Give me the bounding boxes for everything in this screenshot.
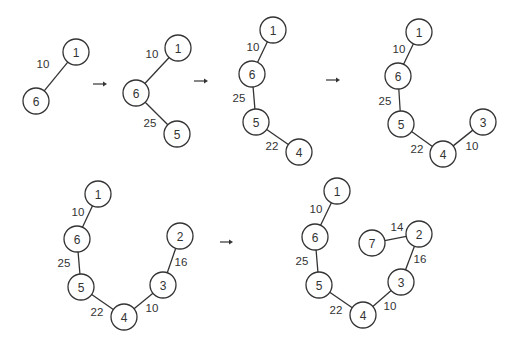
- graph-step-2: 1025165: [123, 35, 191, 147]
- node-label: 5: [398, 118, 405, 132]
- mst-steps-diagram: 1016102516510252216541025221016543102522…: [0, 0, 518, 346]
- graph-steps: 1016102516510252216541025221016543102522…: [23, 17, 496, 330]
- edge-1-6: 10: [247, 41, 268, 62]
- edge-6-5: 25: [233, 87, 255, 109]
- node-1: 1: [63, 39, 89, 65]
- node-4: 4: [350, 302, 376, 328]
- arrow-5-6-icon: [220, 240, 233, 245]
- edge-1-6: 10: [72, 206, 93, 227]
- node-5: 5: [164, 121, 190, 147]
- edge-5-4: 22: [330, 292, 353, 316]
- node-label: 6: [249, 68, 256, 82]
- edge-weight-label: 10: [146, 48, 159, 60]
- node-label: 4: [296, 146, 303, 160]
- graph-step-4: 1025221016543: [379, 19, 496, 167]
- edge-6-5: 25: [144, 102, 168, 129]
- node-label: 4: [121, 311, 128, 325]
- node-6: 6: [64, 226, 90, 252]
- edge-weight-label: 25: [144, 117, 157, 129]
- edge-7-2: 14: [385, 221, 406, 241]
- edge-weight-label: 25: [58, 257, 71, 269]
- node-label: 1: [175, 42, 182, 56]
- edge-weight-label: 22: [411, 143, 424, 155]
- edge-weight-label: 10: [247, 41, 260, 53]
- node-5: 5: [68, 274, 94, 300]
- node-6: 6: [23, 88, 49, 114]
- edge-weight-label: 10: [466, 140, 479, 152]
- edge-weight-label: 25: [296, 255, 309, 267]
- arrow-2-3-icon: [194, 79, 208, 84]
- edge-1-6: 10: [310, 203, 332, 226]
- node-7: 7: [359, 230, 385, 256]
- node-1: 1: [85, 181, 111, 207]
- edge-weight-label: 25: [379, 95, 392, 107]
- node-4: 4: [286, 139, 312, 165]
- edge-weight-label: 10: [384, 300, 397, 312]
- edge-weight-label: 16: [175, 256, 188, 268]
- graph-step-5: 1025221016165432: [58, 181, 193, 330]
- node-label: 6: [395, 70, 402, 84]
- node-3: 3: [150, 272, 176, 298]
- node-label: 3: [480, 116, 487, 130]
- node-4: 4: [430, 141, 456, 167]
- edge-weight-label: 10: [310, 203, 323, 215]
- edge-weight-label: 14: [391, 221, 404, 233]
- node-label: 2: [177, 230, 184, 244]
- node-2: 2: [406, 221, 432, 247]
- node-label: 2: [416, 228, 423, 242]
- node-label: 1: [416, 26, 423, 40]
- node-label: 6: [74, 233, 81, 247]
- graph-step-6: 1025221016141654327: [296, 178, 432, 328]
- edge-weight-label: 22: [91, 306, 104, 318]
- node-1: 1: [324, 178, 350, 204]
- node-1: 1: [260, 17, 286, 43]
- edge-weight-label: 10: [393, 43, 406, 55]
- edge-4-3: 10: [134, 293, 158, 314]
- node-label: 3: [398, 276, 405, 290]
- node-label: 1: [270, 24, 277, 38]
- edge-3-2: 16: [406, 246, 427, 270]
- edge-6-5: 25: [58, 252, 80, 274]
- edge-5-4: 22: [91, 294, 114, 318]
- edge-6-5: 25: [379, 89, 401, 111]
- node-label: 4: [440, 148, 447, 162]
- edge-1-6: 10: [37, 58, 68, 91]
- node-label: 1: [73, 46, 80, 60]
- node-label: 5: [78, 281, 85, 295]
- node-5: 5: [243, 109, 269, 135]
- node-3: 3: [388, 269, 414, 295]
- node-label: 1: [95, 188, 102, 202]
- node-label: 1: [334, 185, 341, 199]
- edge-1-6: 10: [393, 43, 414, 64]
- node-label: 6: [33, 95, 40, 109]
- node-1: 1: [406, 19, 432, 45]
- edge-6-5: 25: [296, 250, 318, 272]
- node-label: 4: [360, 309, 367, 323]
- node-2: 2: [167, 223, 193, 249]
- node-6: 6: [239, 61, 265, 87]
- node-label: 5: [174, 128, 181, 142]
- edge-weight-label: 10: [37, 58, 50, 70]
- graph-step-3: 1025221654: [233, 17, 312, 165]
- edge-4-3: 10: [453, 130, 478, 152]
- edge-weight-label: 22: [266, 140, 279, 152]
- arrow-3-4-icon: [326, 78, 340, 83]
- node-label: 6: [312, 231, 319, 245]
- node-label: 5: [316, 279, 323, 293]
- node-label: 6: [133, 87, 140, 101]
- node-6: 6: [123, 80, 149, 106]
- edge-5-4: 22: [411, 132, 433, 155]
- node-label: 7: [369, 237, 376, 251]
- node-label: 3: [160, 279, 167, 293]
- node-6: 6: [385, 63, 411, 89]
- edge-weight-label: 10: [146, 302, 159, 314]
- edge-weight-label: 10: [72, 206, 85, 218]
- node-5: 5: [306, 272, 332, 298]
- arrow-1-2-icon: [93, 82, 107, 87]
- edge-5-4: 22: [266, 129, 289, 152]
- edge-4-3: 10: [373, 291, 397, 312]
- edge-3-2: 16: [167, 248, 187, 272]
- node-5: 5: [388, 111, 414, 137]
- node-3: 3: [470, 109, 496, 135]
- node-6: 6: [302, 224, 328, 250]
